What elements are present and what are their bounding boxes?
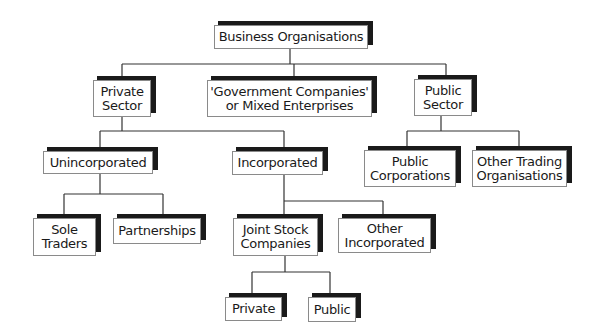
node-label: Private Sector [93,80,151,117]
node-sole-traders: Sole Traders [33,218,96,256]
node-unincorporated: Unincorporated [43,151,153,174]
node-other-trading-organisations: Other Trading Organisations [472,150,567,187]
node-label: Business Organisations [214,25,368,49]
node-label: Public Sector [414,79,472,116]
node-label: Other Incorporated [338,218,431,253]
node-public-sector: Public Sector [414,79,472,116]
node-public-corporations: Public Corporations [364,150,456,187]
business-organisations-diagram: Business OrganisationsPrivate Sector'Gov… [0,0,601,335]
node-joint-stock-companies: Joint Stock Companies [233,218,318,256]
node-label: Private [225,297,282,321]
node-label: Public [308,297,356,322]
node-root: Business Organisations [214,25,368,49]
node-government-companies: 'Government Companies' or Mixed Enterpri… [207,80,372,117]
node-label: Incorporated [232,151,323,175]
node-label: Joint Stock Companies [233,218,318,256]
node-public: Public [308,297,356,322]
node-other-incorporated: Other Incorporated [338,218,431,253]
node-incorporated: Incorporated [232,151,323,175]
node-label: Public Corporations [364,150,456,187]
node-partnerships: Partnerships [113,218,201,244]
node-private: Private [225,297,282,321]
node-label: Sole Traders [33,218,96,256]
node-label: Unincorporated [43,151,153,174]
node-label: Other Trading Organisations [472,150,567,187]
node-label: 'Government Companies' or Mixed Enterpri… [207,80,372,117]
node-private-sector: Private Sector [93,80,151,117]
node-label: Partnerships [113,218,201,244]
